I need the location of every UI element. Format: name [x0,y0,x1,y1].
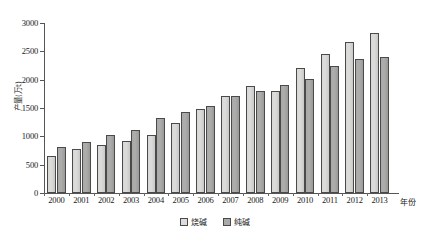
bar-2010-烧碱 [296,68,305,193]
bar-2013-纯碱 [380,57,389,193]
bar-group: 2001 [72,23,91,193]
bar-2008-烧碱 [246,86,255,193]
y-tick-label: 2000 [22,75,38,84]
bar-2010-纯碱 [305,79,314,193]
bar-2009-纯碱 [280,85,289,193]
x-tick-mark [218,193,219,196]
bar-2011-纯碱 [330,66,339,194]
legend-item-烧碱[interactable]: 烧碱 [180,216,207,227]
x-tick-mark [243,193,244,196]
bar-2006-烧碱 [196,109,205,193]
x-tick-mark [44,193,45,196]
bar-group: 2004 [147,23,166,193]
bar-2002-烧碱 [97,145,106,193]
x-tick-label: 2012 [347,195,363,205]
x-tick-label: 2010 [297,195,313,205]
bar-group: 2007 [221,23,240,193]
y-tick-label: 3000 [22,19,38,28]
bar-groups: 2000200120022003200420052006200720082009… [44,23,392,193]
bar-2005-纯碱 [181,112,190,193]
bar-2011-烧碱 [321,54,330,193]
bar-2012-烧碱 [345,42,354,193]
y-tick-label: 1000 [22,132,38,141]
bar-2000-烧碱 [47,156,56,193]
bar-group: 2002 [97,23,116,193]
x-tick-label: 2005 [173,195,189,205]
x-tick-label: 2013 [371,195,387,205]
x-tick-mark [144,193,145,196]
y-tick-label: 500 [26,160,38,169]
bar-group: 2006 [196,23,215,193]
bar-2007-纯碱 [231,96,240,193]
x-tick-label: 2008 [247,195,263,205]
x-tick-mark [293,193,294,196]
x-axis-line [44,193,399,194]
bar-group: 2003 [122,23,141,193]
x-tick-mark [94,193,95,196]
x-axis-title: 年份 [400,196,416,207]
x-tick-label: 2007 [222,195,238,205]
x-tick-mark [69,193,70,196]
legend-label: 纯碱 [234,216,250,227]
x-tick-mark [342,193,343,196]
x-tick-mark [193,193,194,196]
bar-2003-纯碱 [131,130,140,193]
x-tick-label: 2000 [48,195,64,205]
legend-item-纯碱[interactable]: 纯碱 [223,216,250,227]
legend-swatch-icon [223,218,231,226]
x-tick-label: 2003 [123,195,139,205]
x-tick-mark [268,193,269,196]
x-tick-label: 2009 [272,195,288,205]
bar-group: 2010 [296,23,315,193]
bar-2009-烧碱 [271,91,280,193]
bar-2003-烧碱 [122,141,131,193]
bar-2004-纯碱 [156,118,165,193]
bar-group: 2000 [47,23,66,193]
bar-group: 2005 [171,23,190,193]
bar-2001-烧碱 [72,149,81,193]
bar-group: 2013 [370,23,389,193]
x-tick-mark [318,193,319,196]
bar-2005-烧碱 [171,123,180,193]
bar-group: 2008 [246,23,265,193]
bar-2007-烧碱 [221,96,230,193]
bar-2006-纯碱 [206,106,215,193]
x-tick-label: 2004 [148,195,164,205]
bar-2004-烧碱 [147,135,156,193]
x-tick-mark [168,193,169,196]
x-tick-mark [367,193,368,196]
bar-group: 2011 [321,23,340,193]
bar-2002-纯碱 [106,135,115,193]
y-tick-label: 0 [34,189,38,198]
bar-2000-纯碱 [57,147,66,193]
x-tick-label: 2006 [197,195,213,205]
legend-swatch-icon [180,218,188,226]
bar-group: 2012 [345,23,364,193]
y-tick-label: 1500 [22,104,38,113]
bar-2008-纯碱 [256,91,265,193]
legend-label: 烧碱 [191,216,207,227]
bar-group: 2009 [271,23,290,193]
bar-2013-烧碱 [370,33,379,193]
bar-chart: 产量(万t) 050010001500200025003000 20002001… [0,0,429,242]
bar-2012-纯碱 [355,59,364,193]
bar-2001-纯碱 [82,142,91,193]
chart-legend: 烧碱纯碱 [0,216,429,227]
y-tick-label: 2500 [22,47,38,56]
x-tick-label: 2001 [73,195,89,205]
x-tick-mark [119,193,120,196]
x-tick-label: 2011 [322,195,338,205]
x-tick-label: 2002 [98,195,114,205]
